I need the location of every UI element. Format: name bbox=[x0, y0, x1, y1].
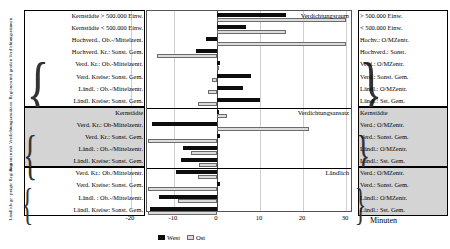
legend-swatch-west bbox=[158, 235, 165, 240]
group-caption-1: Regionen mit Verdichtungsansätzen bbox=[0, 107, 22, 168]
gridline bbox=[174, 11, 175, 211]
x-axis-title: Minuten bbox=[370, 216, 397, 225]
row-label-right: Verd.: O/MZentr. bbox=[360, 122, 404, 128]
bar-ost bbox=[148, 139, 217, 143]
legend-label: Ost bbox=[196, 234, 205, 241]
group-caption-text: Regionen mit Verdichtungsansätzen bbox=[8, 102, 13, 171]
row-label-right: > 500.000 Einw. bbox=[360, 13, 402, 19]
group-annotation-2: Ländlich bbox=[326, 169, 349, 176]
brace-left-2: { bbox=[22, 183, 33, 227]
bar-ost bbox=[199, 163, 217, 167]
bar-west bbox=[217, 98, 260, 102]
bar-west bbox=[217, 13, 286, 17]
row-label-right: Verd.: Sonst. Gem. bbox=[360, 134, 408, 140]
group-annotation-1: Verdichtungsansatz bbox=[298, 109, 349, 116]
bar-west bbox=[217, 134, 220, 138]
row-label-left: Ländl. : Ob.-/Mittelzentr. bbox=[79, 86, 143, 92]
legend-item-west[interactable]: West bbox=[158, 234, 180, 241]
bar-ost bbox=[217, 30, 286, 34]
row-label-right: Verd.: Sonst. Gem. bbox=[360, 74, 408, 80]
x-axis-tick: -20 bbox=[115, 214, 145, 221]
legend-item-ost[interactable]: Ost bbox=[187, 234, 205, 241]
bar-west bbox=[217, 86, 243, 90]
group-separator bbox=[147, 168, 351, 169]
row-label-left: Ländl. : Ob.-/Mittelzentr. bbox=[79, 146, 143, 152]
bar-west bbox=[217, 74, 251, 78]
bar-ost bbox=[208, 90, 217, 94]
bar-west bbox=[176, 170, 217, 174]
bar-west bbox=[206, 37, 217, 41]
row-label-right: Ländl.: O/MZentr. bbox=[360, 195, 407, 201]
row-label-left: Verd. Kr.: Ob.-Mittelzentr. bbox=[75, 61, 143, 67]
row-label-left: Verd. Kr.: Ob-Mittelzentr. bbox=[77, 122, 143, 128]
bar-west bbox=[196, 49, 218, 53]
row-label-right: Verd.: O/MZentr. bbox=[360, 61, 404, 67]
row-label-right: Ländl.: Sst. Gem. bbox=[360, 207, 405, 213]
row-label-left: Kernstädte > 500.000 Einw. bbox=[71, 13, 143, 19]
bar-ost bbox=[191, 151, 217, 155]
x-axis-tick: 0 bbox=[201, 214, 231, 221]
row-label-left: Kernstädte < 500.000 Einw. bbox=[71, 25, 143, 31]
row-label-left: Kernstädte bbox=[115, 110, 143, 116]
row-label-left: Ländl. : Ob.-/Mittelzentr. bbox=[79, 195, 143, 201]
bar-west bbox=[217, 110, 219, 114]
row-label-left: Verd. Kr.: Sonst. Gem. bbox=[85, 134, 143, 140]
bar-ost bbox=[178, 199, 217, 203]
bar-ost bbox=[217, 42, 346, 46]
row-label-right: Verd.: Sonst. Gem. bbox=[360, 182, 408, 188]
legend: WestOst bbox=[158, 234, 205, 241]
row-label-right: Hochverd.: Sonst. bbox=[360, 49, 406, 55]
row-label-left: Hochverd. Kr.: Sonst. Gem. bbox=[72, 49, 143, 55]
bar-ost bbox=[217, 127, 309, 131]
row-label-left: Ländl. Kreise: Sonst. Gem. bbox=[73, 158, 143, 164]
row-label-left: Verd. Kreise: Sonst. Gem. bbox=[76, 74, 143, 80]
group-caption-text: Regionen mit großen Verdichtungsräumen bbox=[8, 18, 13, 100]
row-label-right: Kernstädte bbox=[360, 110, 388, 116]
x-axis-tick: 30 bbox=[330, 214, 360, 221]
x-axis-tick: -10 bbox=[158, 214, 188, 221]
bar-ost bbox=[212, 78, 217, 82]
bar-ost bbox=[217, 66, 219, 70]
bar-ost bbox=[157, 54, 217, 58]
bar-ost bbox=[148, 187, 217, 191]
row-label-left: Hochverd.. Ob.-/Mittelzent. bbox=[72, 37, 143, 43]
row-label-right: Ländl.: Sst. Gem. bbox=[360, 158, 405, 164]
row-label-right: Ländl.: O/MZentr. bbox=[360, 146, 407, 152]
group-caption-0: Regionen mit großen Verdichtungsräumen bbox=[0, 10, 22, 107]
group-annotation-0: Verdichtungsraum bbox=[301, 12, 349, 19]
bar-ost bbox=[198, 102, 217, 106]
x-axis-tick: 10 bbox=[244, 214, 274, 221]
bar-west bbox=[159, 195, 217, 199]
row-label-left: Verd. Kr.: Ob./Mittelzentr. bbox=[76, 170, 143, 176]
legend-swatch-ost bbox=[187, 235, 194, 240]
bar-west bbox=[217, 182, 220, 186]
bar-ost bbox=[217, 114, 227, 118]
bar-ost bbox=[198, 175, 217, 179]
row-label-left: Verd. Kreise: Sonst. Gem. bbox=[76, 182, 143, 188]
legend-label: West bbox=[167, 234, 180, 241]
bar-west bbox=[217, 25, 246, 29]
bar-west bbox=[150, 207, 217, 211]
row-label-right: < 500.000 Einw. bbox=[360, 25, 402, 31]
row-label-right: Ländl.: Sst. Gem. bbox=[360, 98, 405, 104]
group-caption-text: Ländlich ge- prägte Regionen bbox=[8, 163, 13, 221]
row-label-left: Ländl. Kreise: Sonst. Gem. bbox=[73, 98, 143, 104]
bar-west bbox=[217, 61, 220, 65]
row-label-left: Ländl. Kreise: Sonst. Gem. bbox=[73, 207, 143, 213]
row-label-right: Ländl.: O/MZentr. bbox=[360, 86, 407, 92]
bar-west bbox=[181, 158, 217, 162]
bar-west bbox=[152, 122, 217, 126]
bar-west bbox=[183, 146, 217, 150]
row-label-right: Hochv.: O/MZentr. bbox=[360, 37, 409, 43]
row-label-right: Verd.: O/MZentr. bbox=[360, 170, 404, 176]
x-axis-tick: 20 bbox=[287, 214, 317, 221]
group-caption-2: Ländlich ge- prägte Regionen bbox=[0, 167, 22, 215]
